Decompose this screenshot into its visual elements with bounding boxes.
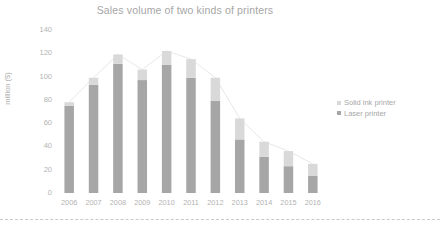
- chart-legend: Solid ink printerLaser printer: [337, 99, 437, 120]
- legend-swatch-icon: [337, 111, 341, 115]
- bar-group[interactable]: [89, 78, 99, 193]
- bar-segment-solid-ink-printer[interactable]: [211, 78, 221, 101]
- chart-title: Sales volume of two kinds of printers: [0, 4, 370, 16]
- x-tick-label: 2006: [61, 198, 77, 207]
- legend-item[interactable]: Laser printer: [337, 110, 437, 118]
- x-tick-label: 2012: [207, 198, 223, 207]
- bar-group[interactable]: [64, 102, 74, 193]
- x-tick-label: 2015: [280, 198, 296, 207]
- bar-segment-laser-printer[interactable]: [138, 80, 148, 193]
- bar-segment-solid-ink-printer[interactable]: [259, 142, 269, 157]
- bar-segment-laser-printer[interactable]: [89, 85, 99, 193]
- y-axis-title: million ($): [3, 54, 12, 124]
- y-tick-label: 20: [22, 166, 52, 174]
- y-axis-tick-labels: 020406080100120140: [20, 30, 52, 193]
- x-tick-label: 2016: [305, 198, 321, 207]
- bar-segment-laser-printer[interactable]: [186, 78, 196, 193]
- bar-segment-solid-ink-printer[interactable]: [64, 102, 74, 105]
- bar-group[interactable]: [186, 59, 196, 193]
- x-tick-label: 2007: [85, 198, 101, 207]
- bar-group[interactable]: [162, 51, 172, 193]
- bar-segment-laser-printer[interactable]: [211, 101, 221, 193]
- bar-group[interactable]: [211, 78, 221, 193]
- plot-svg: [57, 30, 325, 193]
- y-tick-label: 40: [22, 142, 52, 150]
- bar-segment-solid-ink-printer[interactable]: [284, 151, 294, 166]
- bar-segment-solid-ink-printer[interactable]: [89, 78, 99, 85]
- legend-item[interactable]: Solid ink printer: [337, 99, 437, 107]
- y-tick-label: 140: [22, 26, 52, 34]
- y-tick-label: 60: [22, 119, 52, 127]
- bar-group[interactable]: [138, 70, 148, 193]
- bar-group[interactable]: [308, 164, 318, 193]
- y-tick-label: 0: [22, 189, 52, 197]
- bar-segment-laser-printer[interactable]: [284, 166, 294, 193]
- bar-group[interactable]: [235, 118, 245, 193]
- legend-label: Laser printer: [344, 110, 386, 118]
- plot-area: [57, 30, 325, 193]
- x-axis-tick-labels: 2006200720082009201020112012201320142015…: [57, 198, 325, 212]
- legend-label: Solid ink printer: [344, 99, 396, 107]
- bar-segment-solid-ink-printer[interactable]: [308, 164, 318, 176]
- chart-container: Sales volume of two kinds of printers mi…: [0, 0, 440, 231]
- bar-segment-solid-ink-printer[interactable]: [113, 54, 123, 63]
- x-tick-label: 2009: [134, 198, 150, 207]
- y-tick-label: 120: [22, 49, 52, 57]
- y-tick-label: 100: [22, 73, 52, 81]
- x-tick-label: 2011: [183, 198, 199, 207]
- x-tick-label: 2014: [256, 198, 272, 207]
- legend-swatch-icon: [337, 101, 341, 105]
- bar-segment-laser-printer[interactable]: [162, 65, 172, 193]
- bar-segment-solid-ink-printer[interactable]: [162, 51, 172, 65]
- bar-segment-laser-printer[interactable]: [64, 106, 74, 193]
- bar-segment-laser-printer[interactable]: [235, 139, 245, 193]
- bar-segment-solid-ink-printer[interactable]: [235, 118, 245, 139]
- bar-segment-laser-printer[interactable]: [113, 64, 123, 193]
- bar-segment-laser-printer[interactable]: [259, 157, 269, 193]
- bar-group[interactable]: [284, 151, 294, 193]
- bar-segment-solid-ink-printer[interactable]: [138, 70, 148, 80]
- x-tick-label: 2008: [110, 198, 126, 207]
- bar-group[interactable]: [259, 142, 269, 193]
- y-tick-label: 80: [22, 96, 52, 104]
- bottom-dashed-divider: [0, 219, 440, 220]
- bar-segment-laser-printer[interactable]: [308, 176, 318, 193]
- bar-segment-solid-ink-printer[interactable]: [186, 59, 196, 78]
- x-tick-label: 2010: [159, 198, 175, 207]
- x-tick-label: 2013: [232, 198, 248, 207]
- bar-group[interactable]: [113, 54, 123, 193]
